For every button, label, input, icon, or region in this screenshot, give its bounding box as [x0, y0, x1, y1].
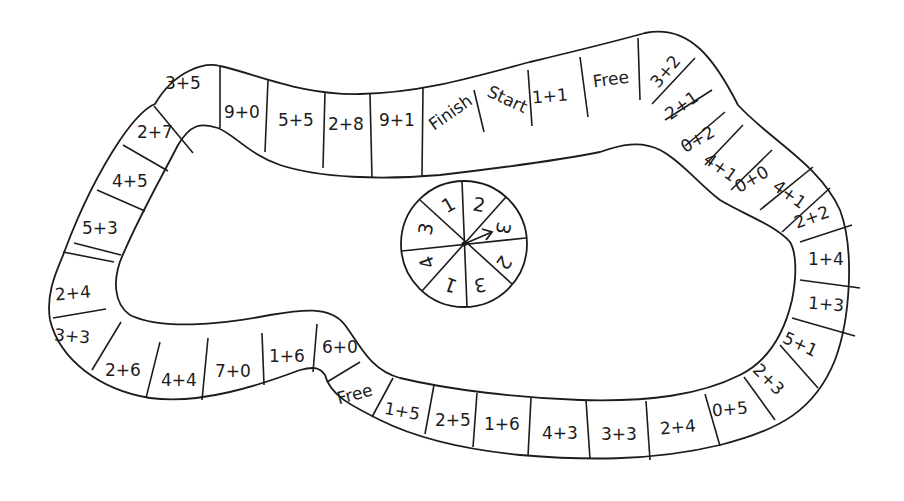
square[interactable]: 4+3: [542, 423, 578, 443]
square[interactable]: 0+5: [711, 397, 748, 420]
square[interactable]: 5+3: [82, 218, 118, 238]
square[interactable]: 3+3: [53, 324, 90, 347]
square[interactable]: 4+4: [161, 370, 197, 390]
square[interactable]: 1+1: [531, 84, 568, 107]
square[interactable]: 2+6: [105, 360, 141, 380]
square[interactable]: 1+6: [484, 414, 520, 434]
square[interactable]: 2+7: [137, 122, 173, 142]
square[interactable]: 4+5: [112, 171, 148, 191]
square[interactable]: 1+6: [269, 346, 305, 366]
game-board: Start 1+1 Free 3+2 2+1 0+2 4+1 0+0 4+1 2…: [0, 0, 904, 501]
square[interactable]: 5+5: [278, 110, 314, 130]
square[interactable]: 2+8: [328, 114, 364, 134]
square[interactable]: 9+0: [224, 102, 260, 122]
square[interactable]: 2+4: [54, 281, 91, 304]
spinner[interactable]: 2 3 2 3 1 4 3 1: [401, 181, 527, 307]
square[interactable]: 6+0: [322, 337, 358, 357]
square[interactable]: 2+5: [435, 410, 471, 430]
square[interactable]: 2+4: [659, 415, 696, 438]
square[interactable]: 3+5: [165, 73, 201, 93]
square[interactable]: 1+3: [807, 292, 844, 315]
square[interactable]: 3+3: [601, 424, 637, 444]
square[interactable]: 9+1: [379, 110, 415, 130]
square[interactable]: 1+4: [808, 249, 844, 269]
square[interactable]: 7+0: [215, 361, 251, 381]
